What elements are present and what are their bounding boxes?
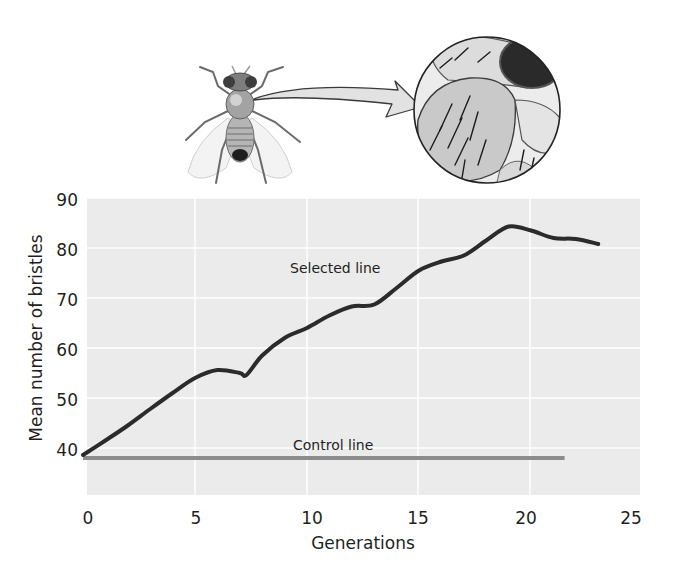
fly-illustration [186,66,300,183]
x-tick-label: 5 [191,508,202,528]
x-tick-label: 20 [515,508,537,528]
y-tick-label: 40 [56,440,78,460]
x-tick-label: 0 [83,508,94,528]
bristle-selection-figure: Selected line Control line 90 80 70 60 5… [0,0,673,569]
y-tick-label: 90 [56,190,78,210]
y-tick-label: 50 [56,390,78,410]
thorax-magnified-inset [414,36,564,190]
selected-line-label: Selected line [290,260,380,276]
x-axis-ticks: 0 5 10 15 20 25 [83,508,642,528]
y-tick-label: 80 [56,240,78,260]
magnify-arrow-icon [254,81,421,117]
y-axis-title: Mean number of bristles [26,234,46,441]
y-axis-ticks: 90 80 70 60 50 40 [56,190,78,460]
y-tick-label: 70 [56,290,78,310]
x-tick-label: 15 [407,508,429,528]
chart: Selected line Control line 90 80 70 60 5… [26,190,642,553]
x-tick-label: 10 [301,508,323,528]
control-line-label: Control line [293,437,373,453]
x-tick-label: 25 [620,508,642,528]
x-axis-title: Generations [311,533,415,553]
y-tick-label: 60 [56,340,78,360]
